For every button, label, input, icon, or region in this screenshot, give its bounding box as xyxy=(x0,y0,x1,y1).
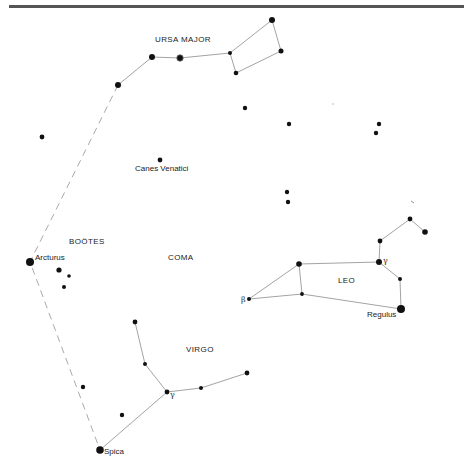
top-border xyxy=(9,5,464,8)
label-arcturus: Arcturus xyxy=(35,253,65,262)
star-canes-venatici xyxy=(158,158,163,163)
star xyxy=(120,413,124,417)
star xyxy=(228,51,232,55)
star xyxy=(287,122,291,126)
faint-mark xyxy=(411,201,414,203)
star xyxy=(398,277,402,281)
label-coma: COMA xyxy=(168,253,194,262)
star xyxy=(378,239,383,244)
star xyxy=(245,371,250,376)
leo-lines-sickle xyxy=(302,262,401,309)
star xyxy=(62,285,66,289)
star xyxy=(133,320,138,325)
star xyxy=(56,267,61,272)
star-double xyxy=(177,55,183,61)
virgo-lines xyxy=(135,322,247,392)
star xyxy=(199,386,203,390)
field-stars xyxy=(40,106,382,417)
arc-to-arcturus-spica xyxy=(30,85,118,450)
star xyxy=(285,190,289,194)
star xyxy=(296,261,302,267)
star xyxy=(286,200,290,204)
label-virgo: VIRGO xyxy=(186,345,214,354)
star xyxy=(374,131,378,135)
star xyxy=(234,71,239,76)
star xyxy=(40,135,45,140)
label-regulus: Regulus xyxy=(367,310,396,319)
star-regulus xyxy=(397,305,405,313)
star xyxy=(279,49,284,54)
star-leo-beta xyxy=(247,297,251,301)
faint-mark xyxy=(332,103,334,105)
star-arcturus xyxy=(26,258,34,266)
star xyxy=(300,292,304,296)
bootes-stars xyxy=(26,258,71,289)
star-chart: URSA MAJOR Canes Venatici BOÖTES COMA LE… xyxy=(0,0,464,463)
label-leo-beta: β xyxy=(241,295,246,304)
star xyxy=(243,106,247,110)
star xyxy=(115,82,121,88)
ursa-major-lines xyxy=(118,20,281,85)
star-virgo-gamma xyxy=(165,390,170,395)
star xyxy=(269,17,275,23)
label-leo: LEO xyxy=(338,276,355,285)
label-leo-gamma: γ xyxy=(383,256,388,265)
leo-lines xyxy=(249,219,425,299)
virgo-lines-spica xyxy=(100,392,167,450)
star-spica xyxy=(96,446,104,454)
label-virgo-gamma: γ xyxy=(170,390,175,399)
ursa-major-stars xyxy=(115,17,284,88)
star xyxy=(81,385,85,389)
star xyxy=(143,362,147,366)
star xyxy=(67,274,71,278)
label-spica: Spica xyxy=(104,447,125,456)
star xyxy=(422,229,428,235)
label-ursa-major: URSA MAJOR xyxy=(155,35,211,44)
label-bootes: BOÖTES xyxy=(69,237,105,246)
star xyxy=(149,54,155,60)
star-leo-gamma xyxy=(376,259,382,265)
label-canes-venatici: Canes Venatici xyxy=(135,164,189,173)
star xyxy=(408,217,413,222)
star xyxy=(377,122,381,126)
